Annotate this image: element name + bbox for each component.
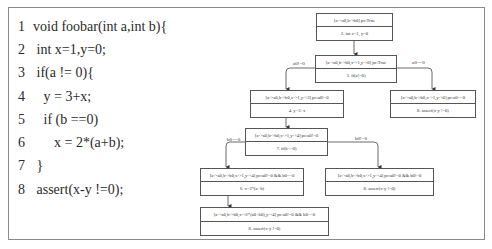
node-state: [a->a0,b->b0,x->1,y->4] pc:a0!=0 — [246, 129, 327, 142]
node-state: [a->a0,b->b0,x->1,y->4] pc:a0!=0 && b0!=… — [326, 169, 433, 182]
node-n6: [a->a0,b->b0,x->1,y->4] pc:a0!=0 && b0==… — [200, 168, 304, 196]
node-n5: [a->a0,b->b0,x->1,y->4] pc:a0!=0 7. if(b… — [245, 128, 328, 156]
node-n7: [a->a0,b->b0,x->1,y->4] pc:a0!=0 && b0!=… — [325, 168, 434, 196]
edge-n5-n6 — [226, 142, 245, 167]
edge-label-b-ne-0: b0!=0 — [355, 136, 367, 141]
node-state: [a->a0,b->b0] pc:True — [317, 14, 392, 27]
node-statement: 8. assert(x-y !=0) — [201, 222, 328, 236]
node-statement: 6. x=2*(a+b) — [201, 182, 303, 195]
edge-n2-n3 — [286, 68, 315, 89]
node-state: [a->a0,b->b0,x->1,y->0] pc:a0==0 — [391, 91, 475, 104]
node-statement: 7. if(b==0) — [246, 142, 327, 155]
node-n8: [a->a0,b->b0,x->2*(a0+b0),y->4] pc:a0!=0… — [200, 207, 329, 236]
node-state: [a->a0,b->b0,x->1,y->3] pc:a0!=0 — [251, 91, 343, 104]
edge-n2-n4 — [396, 68, 432, 89]
node-n4: [a->a0,b->b0,x->1,y->0] pc:a0==0 8. asse… — [390, 90, 476, 118]
node-n2: [a->a0,b->b0,x->1,y->0] pc:True 3. if(a!… — [315, 55, 397, 83]
node-statement: 8. assert(x-y !=0) — [391, 104, 475, 117]
node-statement: 3. if(a!=0) — [316, 69, 396, 82]
node-state: [a->a0,b->b0,x->2*(a0+b0),y->4] pc:a0!=0… — [201, 208, 328, 222]
edge-label-a-eq-0: a0==0 — [412, 60, 425, 65]
edge-label-a-ne-0: a0!=0 — [293, 61, 305, 66]
node-n3: [a->a0,b->b0,x->1,y->3] pc:a0!=0 4. y=3+… — [250, 90, 344, 118]
edge-label-b-eq-0: b0==0 — [227, 137, 240, 142]
node-n1: [a->a0,b->b0] pc:True 2. int x=1, y=0 — [316, 13, 393, 41]
node-statement: 2. int x=1, y=0 — [317, 27, 392, 40]
node-state: [a->a0,b->b0,x->1,y->0] pc:True — [316, 56, 396, 69]
node-state: [a->a0,b->b0,x->1,y->4] pc:a0!=0 && b0==… — [201, 169, 303, 182]
node-statement: 4. y=3+x — [251, 104, 343, 117]
node-statement: 8. assert(x-y !=0) — [326, 182, 433, 195]
